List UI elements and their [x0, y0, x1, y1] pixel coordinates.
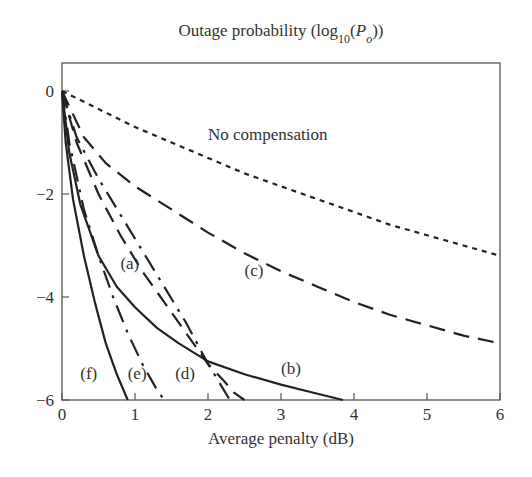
- annotation-label: No compensation: [208, 125, 328, 144]
- annotation-label: (d): [175, 364, 195, 383]
- x-tick-label: 5: [423, 405, 432, 424]
- chart-title: Outage probability (log10(Po)): [179, 21, 384, 46]
- x-tick-label: 1: [131, 405, 140, 424]
- y-tick-label: −4: [36, 288, 55, 307]
- annotation-label: (c): [245, 261, 264, 280]
- x-tick-label: 4: [350, 405, 359, 424]
- plot-frame: [62, 63, 500, 400]
- outage-probability-chart: Outage probability (log10(Po)) 0123456 0…: [0, 0, 532, 477]
- y-tick-label: 0: [46, 82, 55, 101]
- y-tick-label: −2: [36, 185, 54, 204]
- chart-title-text: Outage probability (log10(Po)): [179, 21, 384, 46]
- curve-annotations: No compensation(a)(b)(c)(d)(e)(f): [80, 125, 328, 383]
- x-axis-label: Average penalty (dB): [208, 429, 354, 448]
- annotation-label: (b): [281, 359, 301, 378]
- y-tick-label: −6: [36, 391, 54, 410]
- annotation-label: (e): [128, 364, 147, 383]
- x-axis-ticks: 0123456: [58, 393, 505, 424]
- series-a: [62, 91, 230, 400]
- x-tick-label: 0: [58, 405, 67, 424]
- annotation-label: (a): [120, 254, 139, 273]
- series-no-compensation: [62, 91, 500, 256]
- x-tick-label: 2: [204, 405, 213, 424]
- x-tick-label: 6: [496, 405, 505, 424]
- x-tick-label: 3: [277, 405, 286, 424]
- annotation-label: (f): [80, 364, 97, 383]
